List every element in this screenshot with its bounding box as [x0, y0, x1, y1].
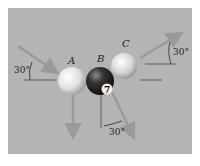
angle-arc-B	[104, 121, 122, 126]
ball-label-B: B	[96, 53, 104, 64]
collision-diagram: 7 A B C 30° 30° 30°	[0, 0, 200, 166]
angle-arc-C	[169, 42, 171, 64]
angle-label-A: 30°	[14, 65, 30, 75]
ball-label-C: C	[122, 38, 130, 49]
angle-label-C: 30°	[173, 47, 189, 57]
ball-B-number: 7	[104, 85, 110, 95]
angle-label-B: 30°	[109, 127, 125, 137]
ball-label-A: A	[67, 55, 75, 66]
ball-C	[111, 53, 137, 79]
ball-A	[58, 67, 86, 95]
